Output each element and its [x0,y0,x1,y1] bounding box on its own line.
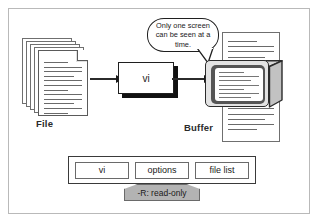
command-cell-file-list[interactable]: file list [195,162,249,179]
callout-bubble: Only one screen can be seen at a time. [147,18,219,52]
command-cell-options[interactable]: options [135,162,189,179]
vi-process-box: vi [118,62,174,94]
monitor-screen [215,68,263,101]
arrow-vi-to-buffer [172,78,204,80]
vi-box-label: vi [118,62,174,94]
read-only-note: -R: read-only [124,184,200,201]
arrow-file-to-vi [90,78,116,80]
buffer-label: Buffer [184,122,213,133]
file-sheet-front [38,50,88,116]
monitor-front-panel [205,60,269,107]
command-cell-vi[interactable]: vi [75,162,129,179]
file-stack-icon [22,38,88,116]
command-bar: vi options file list [68,156,256,184]
screen-text-lines [219,72,259,101]
page-fold-corner-icon [77,50,88,61]
file-text-lines [44,62,82,117]
monitor-icon [205,60,283,114]
monitor-bezel [211,65,265,104]
diagram-canvas: File vi Only one screen can be seen at a… [0,0,320,224]
file-label: File [36,118,53,129]
